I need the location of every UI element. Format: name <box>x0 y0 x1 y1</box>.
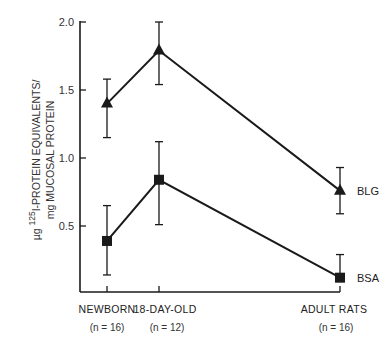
x-category-n: (n = 12) <box>150 322 185 333</box>
y-axis: 0.51.01.52.0 <box>59 16 86 292</box>
square-marker <box>335 273 345 283</box>
y-axis-label: µg 125I-PROTEIN EQUIVALENTS/mg MUCOSAL P… <box>27 80 56 241</box>
series-group: BLGBSA <box>101 22 380 284</box>
series-line <box>107 180 340 278</box>
series-label: BSA <box>357 272 380 284</box>
x-category-n: (n = 16) <box>319 322 354 333</box>
square-marker <box>102 236 112 246</box>
x-category-label: ADULT RATS <box>301 303 368 315</box>
square-marker <box>154 175 164 185</box>
x-category-n: (n = 16) <box>90 322 125 333</box>
ylabel-prefix: µg <box>30 226 42 241</box>
series-label: BLG <box>357 185 379 197</box>
series-bsa: BSA <box>102 142 380 284</box>
x-axis: NEWBORN(n = 16)18-DAY-OLD(n = 12)ADULT R… <box>79 286 368 333</box>
y-tick-label: 0.5 <box>59 220 74 232</box>
x-category-label: 18-DAY-OLD <box>133 303 196 315</box>
ylabel-line2: mg MUCOSAL PROTEIN <box>44 101 56 220</box>
y-tick-label: 2.0 <box>59 16 74 28</box>
triangle-marker <box>153 44 165 55</box>
triangle-marker <box>334 184 346 195</box>
series-blg: BLG <box>101 22 379 214</box>
chart: 0.51.01.52.0 NEWBORN(n = 16)18-DAY-OLD(n… <box>0 0 389 347</box>
y-tick-label: 1.0 <box>59 152 74 164</box>
ylabel-superscript: 125 <box>27 211 37 225</box>
series-line <box>107 51 340 191</box>
ylabel-line1: µg 125I-PROTEIN EQUIVALENTS/ <box>27 80 42 241</box>
x-category-label: NEWBORN <box>79 303 136 315</box>
y-tick-label: 1.5 <box>59 84 74 96</box>
ylabel-text: I-PROTEIN EQUIVALENTS/ <box>30 80 42 212</box>
